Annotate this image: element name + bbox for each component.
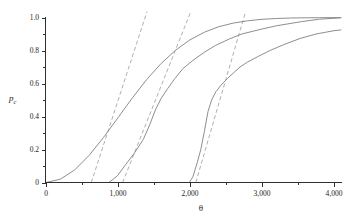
x-axis-title: θ — [199, 203, 203, 213]
x-tick-label-3000: 3,000 — [254, 189, 271, 198]
y-tick-label-0: 0 — [35, 178, 39, 187]
y-tick-label-1: 1.0 — [30, 13, 40, 22]
solid-curves-group — [46, 18, 341, 183]
tick-labels-group: 01,0002,0003,0004,00000.20.40.60.81.0 — [30, 13, 343, 198]
curve-2 — [109, 18, 341, 183]
y-tick-label-0.2: 0.2 — [30, 145, 40, 154]
chart-canvas: 01,0002,0003,0004,00000.20.40.60.81.0 pc… — [0, 0, 355, 220]
x-tick-label-0: 0 — [44, 189, 48, 198]
y-tick-label-0.6: 0.6 — [30, 79, 40, 88]
x-tick-label-2000: 2,000 — [182, 189, 199, 198]
approx-line-3 — [196, 12, 246, 183]
y-tick-label-0.4: 0.4 — [30, 112, 40, 121]
x-tick-label-4000: 4,000 — [326, 189, 343, 198]
curve-1 — [46, 18, 341, 183]
curve-3 — [189, 30, 341, 183]
approx-line-1 — [91, 12, 147, 183]
axes-group — [46, 17, 342, 183]
y-axis-title-sub: c — [14, 98, 17, 105]
dashed-lines-group — [91, 12, 245, 183]
y-axis-title: pc — [8, 93, 17, 105]
y-tick-label-0.8: 0.8 — [30, 46, 40, 55]
probability-chart-figure: 01,0002,0003,0004,00000.20.40.60.81.0 pc… — [0, 0, 355, 220]
x-tick-label-1000: 1,000 — [110, 189, 127, 198]
ticks-group — [42, 19, 335, 187]
